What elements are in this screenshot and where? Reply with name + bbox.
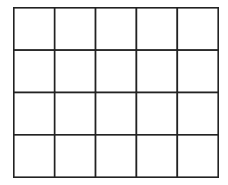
grid-cell-r4-c3 [96, 135, 137, 177]
grid-cell-r2-c5 [177, 50, 218, 92]
grid-diagram [13, 7, 219, 178]
grid-cell-r4-c4 [136, 135, 177, 177]
grid-cell-r3-c1 [14, 93, 55, 135]
grid-cell-r1-c5 [177, 8, 218, 50]
grid-cell-r4-c1 [14, 135, 55, 177]
grid-cell-r4-c5 [177, 135, 218, 177]
grid-cell-r2-c4 [136, 50, 177, 92]
grid-cell-r3-c2 [55, 93, 96, 135]
grid-cell-r1-c3 [96, 8, 137, 50]
grid-cell-r1-c4 [136, 8, 177, 50]
grid-cell-r2-c2 [55, 50, 96, 92]
grid-cell-r3-c5 [177, 93, 218, 135]
grid-svg [13, 7, 219, 178]
grid-cell-r1-c1 [14, 8, 55, 50]
grid-cell-r2-c1 [14, 50, 55, 92]
grid-cell-r4-c2 [55, 135, 96, 177]
grid-cell-r1-c2 [55, 8, 96, 50]
grid-cell-r3-c4 [136, 93, 177, 135]
grid-cell-r3-c3 [96, 93, 137, 135]
grid-cell-r2-c3 [96, 50, 137, 92]
